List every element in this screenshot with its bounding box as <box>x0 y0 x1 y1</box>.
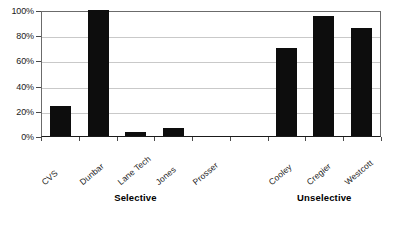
y-axis-tick-label: 0% <box>21 132 34 142</box>
x-axis-label: CVS <box>40 168 60 187</box>
bar-slot <box>155 12 193 136</box>
x-axis-label: Prosser <box>191 160 220 187</box>
bar-slot <box>267 12 305 136</box>
x-axis-labels: CVSDunbarLane TechJonesProsserCooleyCreg… <box>41 139 381 187</box>
y-axis-tick-label: 40% <box>16 82 34 92</box>
x-axis-tick-mark <box>381 137 382 141</box>
bar[interactable] <box>163 128 184 136</box>
bar-slot <box>80 12 118 136</box>
bar[interactable] <box>351 28 372 136</box>
y-axis-tick-label: 20% <box>16 107 34 117</box>
bar-slot <box>192 12 230 136</box>
group-labels: SelectiveUnselective <box>41 192 381 212</box>
bar[interactable] <box>88 10 109 136</box>
bar[interactable] <box>125 132 146 136</box>
bar-slot <box>117 12 155 136</box>
bar[interactable] <box>313 16 334 136</box>
bars-layer <box>42 12 380 136</box>
x-axis-label: Jones <box>153 164 177 187</box>
bar-slot <box>305 12 343 136</box>
plot-area <box>41 11 381 137</box>
y-axis-tick-label: 80% <box>16 31 34 41</box>
bar-chart: 100%80%60%40%20%0% CVSDunbarLane TechJon… <box>0 0 404 225</box>
group-label: Unselective <box>297 192 351 203</box>
x-axis-label: Dunbar <box>78 161 106 187</box>
y-axis-tick-label: 100% <box>11 6 34 16</box>
bar-slot <box>42 12 80 136</box>
group-label: Selective <box>114 192 157 203</box>
x-axis-label: Lane Tech <box>115 154 152 187</box>
bar[interactable] <box>50 106 71 136</box>
bar-slot-gap <box>230 12 268 136</box>
bar[interactable] <box>276 48 297 136</box>
y-axis-tick-label: 60% <box>16 56 34 66</box>
x-axis-label: Westcott <box>342 158 374 187</box>
x-axis-label: Cooley <box>267 162 294 187</box>
bar-slot <box>343 12 381 136</box>
x-axis-label: Cregier <box>304 161 332 187</box>
y-axis: 100%80%60%40%20%0% <box>0 0 41 148</box>
